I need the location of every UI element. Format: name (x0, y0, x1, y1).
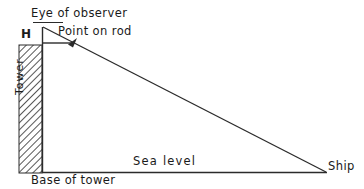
label-eye-of-observer: Eye of observer (31, 8, 127, 20)
label-tower: Tower (14, 58, 25, 95)
label-sea-level: Sea level (133, 156, 196, 168)
label-base-of-tower: Base of tower (31, 175, 115, 187)
label-point-on-rod: Point on rod (58, 26, 132, 38)
diagram-canvas: Eye of observer Point on rod H Tower Sea… (0, 0, 364, 189)
label-ship: Ship (328, 161, 355, 173)
label-height-marker: H (21, 28, 31, 40)
line-of-sight (43, 27, 326, 172)
